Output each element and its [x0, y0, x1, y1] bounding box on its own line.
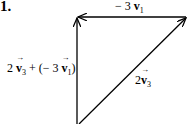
- label-2v3: 2v3: [135, 73, 151, 89]
- vector-v: v: [62, 61, 68, 76]
- label-sum: 2 v3 + (− 3 v1): [7, 61, 76, 77]
- subscript: 1: [140, 6, 144, 15]
- vector-v: v: [141, 73, 147, 88]
- vector-diagonal-arrow: [79, 18, 186, 124]
- operator: + (− 3: [26, 61, 59, 75]
- vector-v: v: [134, 0, 140, 14]
- label-neg-3v1: − 3 v1: [115, 0, 144, 15]
- vector-v: v: [16, 61, 22, 76]
- subscript: 3: [147, 80, 151, 89]
- coef: 2: [7, 61, 13, 75]
- paren: ): [72, 61, 76, 75]
- coef: − 3: [115, 0, 131, 13]
